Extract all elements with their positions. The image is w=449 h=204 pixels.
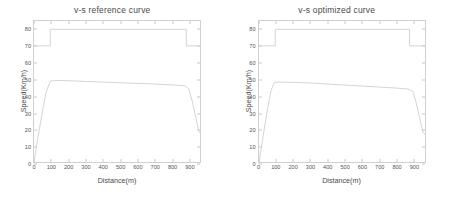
chart-panel-optimized: v-s optimized curve 01020304050607080010…: [225, 0, 449, 204]
x-tick-mark: [172, 159, 173, 162]
y-tick-mark: [422, 147, 425, 148]
y-tick-mark: [34, 29, 37, 30]
y-tick-mark: [259, 113, 262, 114]
x-tick-mark: [293, 21, 294, 24]
x-tick-label: 0: [257, 162, 260, 170]
x-tick-label: 700: [151, 162, 160, 170]
y-tick-mark: [259, 63, 262, 64]
y-tick-label: 20: [25, 127, 34, 133]
y-tick-mark: [422, 113, 425, 114]
x-tick-mark: [51, 21, 52, 24]
x-tick-mark: [155, 159, 156, 162]
y-tick-mark: [34, 147, 37, 148]
x-tick-mark: [345, 159, 346, 162]
y-tick-label: 80: [25, 26, 34, 32]
y-tick-mark: [34, 63, 37, 64]
figure-container: v-s reference curve 01020304050607080010…: [0, 0, 449, 204]
x-tick-mark: [103, 21, 104, 24]
x-axis-label-reference: Distance(m): [33, 176, 201, 185]
x-tick-mark: [362, 21, 363, 24]
x-tick-mark: [189, 21, 190, 24]
x-tick-mark: [362, 159, 363, 162]
x-tick-label: 300: [81, 162, 90, 170]
y-tick-mark: [422, 96, 425, 97]
x-tick-label: 900: [185, 162, 194, 170]
x-tick-mark: [68, 21, 69, 24]
x-tick-label: 800: [168, 162, 177, 170]
y-tick-mark: [422, 46, 425, 47]
x-tick-mark: [379, 21, 380, 24]
y-axis-label-reference: Speed(Km/h): [19, 70, 28, 112]
series-line-reference: [34, 29, 200, 46]
x-tick-mark: [189, 159, 190, 162]
series-line-optimized: [259, 82, 425, 162]
x-tick-mark: [85, 21, 86, 24]
x-tick-label: 900: [410, 162, 419, 170]
y-tick-mark: [34, 130, 37, 131]
y-tick-label: 70: [249, 43, 258, 49]
x-tick-mark: [414, 159, 415, 162]
y-tick-mark: [259, 130, 262, 131]
y-tick-mark: [422, 63, 425, 64]
y-tick-mark: [422, 130, 425, 131]
chart-panel-reference: v-s reference curve 01020304050607080010…: [0, 0, 225, 204]
y-axis-label-optimized: Speed(Km/h): [243, 70, 252, 112]
series-line-optimized: [259, 29, 425, 46]
chart-title-reference: v-s reference curve: [0, 5, 225, 15]
x-tick-mark: [293, 159, 294, 162]
x-tick-mark: [310, 159, 311, 162]
y-tick-label: 70: [25, 43, 34, 49]
y-tick-mark: [259, 96, 262, 97]
x-tick-mark: [172, 21, 173, 24]
y-tick-label: 60: [249, 60, 258, 66]
x-tick-label: 100: [271, 162, 280, 170]
y-tick-mark: [259, 79, 262, 80]
x-tick-label: 300: [306, 162, 315, 170]
y-tick-label: 10: [25, 144, 34, 150]
x-tick-mark: [120, 159, 121, 162]
x-tick-mark: [327, 21, 328, 24]
x-tick-label: 600: [358, 162, 367, 170]
x-tick-mark: [34, 21, 35, 24]
x-tick-label: 800: [392, 162, 401, 170]
x-tick-mark: [345, 21, 346, 24]
x-tick-mark: [137, 159, 138, 162]
x-tick-label: 700: [375, 162, 384, 170]
x-tick-mark: [137, 21, 138, 24]
y-tick-mark: [197, 130, 200, 131]
y-tick-label: 80: [249, 26, 258, 32]
x-tick-mark: [310, 21, 311, 24]
y-tick-label: 10: [249, 144, 258, 150]
x-tick-mark: [397, 21, 398, 24]
x-tick-mark: [414, 21, 415, 24]
y-tick-mark: [197, 96, 200, 97]
x-tick-mark: [397, 159, 398, 162]
y-tick-mark: [34, 79, 37, 80]
x-tick-label: 100: [47, 162, 56, 170]
y-tick-mark: [422, 79, 425, 80]
y-tick-mark: [422, 164, 425, 165]
x-tick-mark: [51, 159, 52, 162]
x-tick-mark: [327, 159, 328, 162]
y-tick-mark: [422, 29, 425, 30]
x-tick-mark: [85, 159, 86, 162]
y-tick-mark: [197, 147, 200, 148]
x-tick-mark: [155, 21, 156, 24]
x-tick-label: 200: [288, 162, 297, 170]
y-tick-mark: [34, 113, 37, 114]
x-tick-label: 600: [133, 162, 142, 170]
y-tick-label: 20: [249, 127, 258, 133]
x-tick-mark: [120, 21, 121, 24]
x-tick-mark: [103, 159, 104, 162]
y-tick-mark: [34, 96, 37, 97]
x-tick-mark: [275, 159, 276, 162]
x-tick-mark: [258, 159, 259, 162]
series-line-reference: [34, 80, 200, 162]
x-tick-label: 200: [64, 162, 73, 170]
y-tick-label: 60: [25, 60, 34, 66]
x-tick-mark: [68, 159, 69, 162]
y-tick-mark: [197, 29, 200, 30]
x-tick-mark: [379, 159, 380, 162]
x-tick-label: 400: [323, 162, 332, 170]
plot-area-reference: 0102030405060708001002003004005006007008…: [33, 20, 201, 163]
